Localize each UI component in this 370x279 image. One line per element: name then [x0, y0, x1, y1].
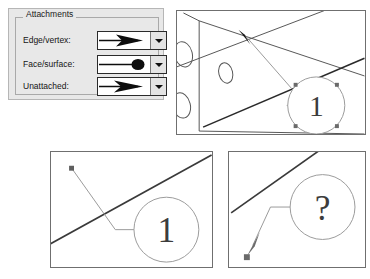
cad-drawing-face-surface: 1 — [51, 152, 212, 267]
attachments-group-label: Attachments — [23, 10, 76, 19]
viewport-edge-vertex-example[interactable]: 1 — [176, 10, 366, 135]
arrow-terminator-icon — [247, 233, 260, 257]
field-row-edge-vertex: Edge/vertex: — [9, 31, 165, 53]
hole-features — [177, 40, 235, 120]
label-unattached: Unattached: — [23, 81, 69, 91]
leader-line — [72, 169, 134, 230]
chevron-down-icon — [155, 39, 163, 43]
cad-drawing-unattached: ? — [229, 152, 365, 267]
attachment-handle[interactable] — [69, 166, 74, 171]
attachment-handle[interactable] — [244, 254, 250, 260]
cad-drawing-edge-vertex: 1 — [177, 11, 365, 134]
arrow-terminator-icon — [98, 78, 150, 95]
combo-button-edge-vertex[interactable] — [150, 32, 166, 49]
balloon-label: ? — [315, 188, 331, 228]
leader-line — [253, 207, 291, 245]
viewport-face-surface-example[interactable]: 1 — [50, 151, 213, 268]
arrow-terminator-icon — [98, 32, 150, 49]
combo-edge-vertex[interactable] — [97, 31, 167, 50]
combo-preview-unattached — [98, 78, 150, 95]
screenshot-stage: Attachments Edge/vertex: Face/surface: — [0, 0, 370, 279]
combo-face-surface[interactable] — [97, 55, 167, 74]
attachments-dialog: Attachments Edge/vertex: Face/surface: — [8, 8, 164, 100]
chevron-down-icon — [155, 85, 163, 89]
chevron-down-icon — [155, 63, 163, 67]
combo-unattached[interactable] — [97, 77, 167, 96]
dot-terminator-icon — [98, 56, 150, 73]
balloon-label: 1 — [309, 90, 324, 122]
balloon-label: 1 — [158, 210, 176, 250]
combo-preview-face-surface — [98, 56, 150, 73]
label-edge-vertex: Edge/vertex: — [23, 35, 71, 45]
combo-preview-edge-vertex — [98, 32, 150, 49]
combo-button-unattached[interactable] — [150, 78, 166, 95]
field-row-unattached: Unattached: — [9, 77, 165, 99]
label-face-surface: Face/surface: — [23, 59, 75, 69]
viewport-unattached-example[interactable]: ? — [228, 151, 366, 268]
combo-button-face-surface[interactable] — [150, 56, 166, 73]
field-row-face-surface: Face/surface: — [9, 55, 165, 77]
